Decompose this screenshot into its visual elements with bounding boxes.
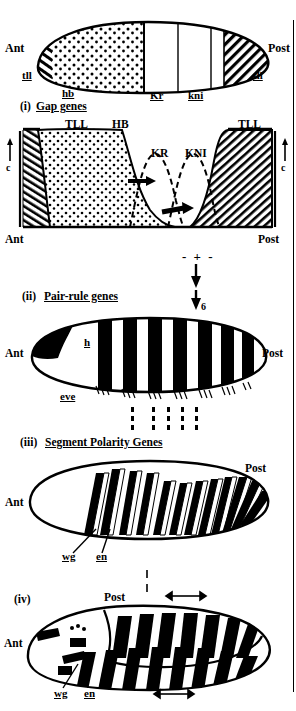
curve-label-tll-posterior: TLL xyxy=(238,119,261,131)
label-posterior: Post xyxy=(268,42,290,54)
gene-label-tll-anterior: tll xyxy=(22,70,32,81)
gene-label-eve: eve xyxy=(60,391,75,402)
arrow-repression-1 xyxy=(146,176,156,186)
gene-label-h: h xyxy=(84,337,90,348)
stripe xyxy=(148,312,162,400)
curve-tll-posterior xyxy=(190,130,272,227)
figure-root: Ant Post tll hb Kr kni tll (i) Gap genes xyxy=(0,0,296,711)
curve-label-hb: HB xyxy=(112,119,129,131)
graph-label-posterior: Post xyxy=(258,234,279,246)
pair-rule-label-anterior: Ant xyxy=(5,348,24,360)
arrow-repression-2 xyxy=(182,202,194,214)
domain-kr-kni xyxy=(144,18,224,98)
panel-gap-graph-number: (i) xyxy=(20,101,31,113)
graph-label-anterior: Ant xyxy=(5,234,24,246)
panel-pair-rule-number: (ii) xyxy=(22,291,36,303)
gene-label-hb: hb xyxy=(62,88,74,99)
curve-label-kni: KNI xyxy=(185,148,207,160)
gene-label-en-iv: en xyxy=(84,688,95,699)
panel-segment-polarity-number: (iii) xyxy=(20,437,37,449)
arrow-down-1 xyxy=(191,276,201,288)
segment-polarity-label-posterior: Post xyxy=(245,463,266,475)
germband-label-posterior: Post xyxy=(104,592,125,604)
pair-rule-stripes xyxy=(28,312,272,400)
label-anterior: Ant xyxy=(5,42,24,54)
segment-polarity-label-anterior: Ant xyxy=(5,497,24,509)
stripe xyxy=(123,312,137,400)
panel-pair-rule-title: Pair-rule genes xyxy=(44,291,118,303)
panel-gap-graph-title: Gap genes xyxy=(36,101,87,113)
arrow-down-2 xyxy=(191,298,201,310)
figure-right-rule xyxy=(293,20,294,692)
curve-label-kr: KR xyxy=(151,148,168,160)
pair-rule-label-posterior: Post xyxy=(262,348,283,360)
curve-label-tll-anterior: TLL xyxy=(65,119,88,131)
gene-label-kr: Kr xyxy=(150,90,163,101)
axis-label-c-right: c xyxy=(281,163,285,173)
panel-segment-polarity-title: Segment Polarity Genes xyxy=(45,437,163,449)
leader-lines xyxy=(0,527,296,555)
gene-label-wg-iii: wg xyxy=(62,551,75,562)
stripe xyxy=(173,312,187,400)
leader-lines-iv xyxy=(0,664,296,690)
axis-label-c-left: c xyxy=(6,163,10,173)
gene-label-en-iii: en xyxy=(96,551,107,562)
curve-hb xyxy=(38,129,175,227)
stripe xyxy=(242,312,254,400)
germband-label-anterior: Ant xyxy=(4,638,23,650)
gene-label-wg-iv: wg xyxy=(54,688,67,699)
gene-label-kni: kni xyxy=(188,90,203,101)
gene-label-tll-posterior: tll xyxy=(253,70,263,81)
eve-stripe-dots xyxy=(0,405,296,435)
arrow-annotation-6: 6 xyxy=(201,302,206,312)
stripe xyxy=(98,312,112,400)
